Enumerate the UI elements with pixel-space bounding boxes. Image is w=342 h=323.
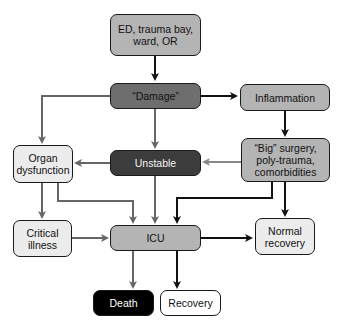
node-icu: ICU bbox=[110, 225, 201, 251]
node-big-surgery: “Big” surgery, poly-trauma, comorbiditie… bbox=[241, 138, 330, 182]
node-death: Death bbox=[93, 290, 154, 316]
node-unstable: Unstable bbox=[110, 150, 201, 176]
node-inflammation: Inflammation bbox=[240, 84, 330, 111]
node-critical-illness: Critical illness bbox=[13, 220, 72, 257]
node-recovery: Recovery bbox=[160, 290, 221, 316]
node-damage: “Damage” bbox=[110, 83, 201, 109]
node-organ-dysfunction: Organ dysfunction bbox=[13, 145, 73, 183]
node-origin: ED, trauma bay, ward, OR bbox=[110, 14, 201, 56]
node-normal-recovery: Normal recovery bbox=[255, 218, 315, 255]
